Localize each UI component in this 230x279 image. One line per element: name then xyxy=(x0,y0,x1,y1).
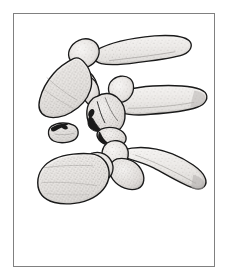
upper-spinous-process-texture xyxy=(96,37,189,62)
figure-border-frame xyxy=(13,13,215,267)
figure-root: Lateral view of three vertebrae with fra… xyxy=(0,0,230,279)
vertebra-lower xyxy=(38,141,206,204)
anatomical-illustration-canvas xyxy=(14,14,214,266)
bone-fragment-displaced xyxy=(48,123,78,143)
upper-vertebral-body-texture xyxy=(41,60,89,115)
vertebra-middle-fractured xyxy=(87,76,207,146)
